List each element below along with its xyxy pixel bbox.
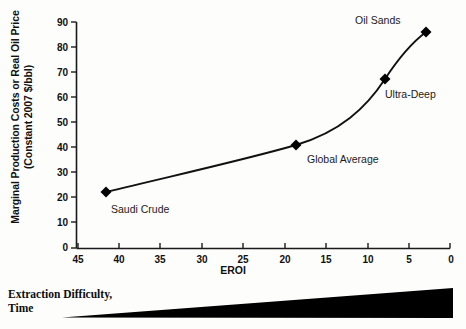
point-label-saudi-crude: Saudi Crude (111, 203, 169, 215)
point-label-oil-sands: Oil Sands (355, 14, 401, 26)
point-label-ultra-deep: Ultra-Deep (385, 88, 436, 100)
data-point-saudi-crude (101, 187, 112, 198)
data-point-global-average (291, 140, 302, 151)
cost-curve (106, 32, 426, 192)
y-axis-ticks (71, 22, 77, 248)
caption-line-1: Extraction Difficulty, (8, 287, 112, 301)
point-label-global-average: Global Average (307, 153, 379, 165)
data-point-ultra-deep (380, 74, 391, 85)
extraction-difficulty-caption: Extraction Difficulty, Time (8, 287, 112, 315)
caption-line-2: Time (8, 301, 112, 315)
extraction-difficulty-wedge (62, 288, 453, 318)
data-point-markers (101, 27, 432, 198)
x-axis-ticks (78, 243, 450, 249)
chart-canvas (0, 0, 466, 329)
chart-figure: Marginal Production Costs or Real Oil Pr… (0, 0, 466, 329)
